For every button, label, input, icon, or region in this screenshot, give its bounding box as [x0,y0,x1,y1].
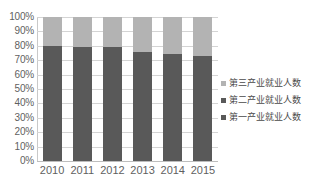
bar-group[interactable] [163,17,182,161]
y-tick-label: 20% [15,127,34,137]
gridline [37,161,218,162]
legend-item[interactable]: 第三产业就业人数 [221,75,311,91]
y-tick-label: 40% [15,98,34,108]
gridline [37,17,218,18]
bar-group[interactable] [103,17,122,161]
x-tick-label: 2011 [70,164,94,177]
gridline [37,60,218,61]
gridline [37,75,218,76]
bar-segment[interactable] [133,17,152,52]
bar-group[interactable] [73,17,92,161]
y-tick-label: 90% [15,26,34,36]
bar-segment[interactable] [163,54,182,161]
y-tick-label: 60% [15,70,34,80]
gridline [37,132,218,133]
y-axis: 0%10%20%30%40%50%60%70%80%90%100% [0,17,34,161]
legend-item[interactable]: 第一产业就业人数 [221,109,311,125]
gridline [37,103,218,104]
stacked-bar-chart: 0%10%20%30%40%50%60%70%80%90%100% 201020… [0,0,312,190]
gridline [37,46,218,47]
x-tick-label: 2014 [161,164,185,177]
bar-segment[interactable] [43,17,62,46]
gridline [37,89,218,90]
bar-segment[interactable] [193,17,212,56]
bar-segment[interactable] [73,17,92,47]
y-tick-label: 0% [20,156,34,166]
bar-segment[interactable] [193,56,212,161]
gridline [37,31,218,32]
legend-swatch-icon [221,81,226,86]
legend-item[interactable]: 第二产业就业人数 [221,92,311,108]
gridline [37,147,218,148]
x-tick-label: 2010 [40,164,64,177]
y-tick-label: 70% [15,55,34,65]
bar-group[interactable] [133,17,152,161]
plot-area [37,17,218,161]
x-tick-label: 2012 [100,164,124,177]
bar-segment[interactable] [103,47,122,161]
bar-group[interactable] [193,17,212,161]
x-tick-label: 2015 [191,164,215,177]
legend-label: 第一产业就业人数 [229,112,301,122]
chart-legend: 第三产业就业人数第二产业就业人数第一产业就业人数 [221,75,311,126]
legend-label: 第二产业就业人数 [229,95,301,105]
y-tick-label: 30% [15,113,34,123]
bar-segment[interactable] [103,17,122,47]
bar-group[interactable] [43,17,62,161]
bar-segment[interactable] [73,47,92,161]
legend-swatch-icon [221,115,226,120]
bar-segment[interactable] [163,17,182,54]
legend-swatch-icon [221,98,226,103]
x-axis: 201020112012201320142015 [37,164,218,180]
bar-segment[interactable] [43,46,62,161]
x-tick-label: 2013 [130,164,154,177]
bar-segment[interactable] [133,52,152,161]
y-tick-label: 10% [15,142,34,152]
y-tick-label: 80% [15,41,34,51]
y-tick-label: 100% [9,12,34,22]
legend-label: 第三产业就业人数 [229,78,301,88]
gridline [37,118,218,119]
y-tick-label: 50% [15,84,34,94]
